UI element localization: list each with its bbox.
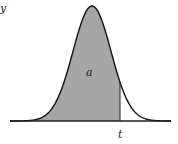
cutoff-label: t [118, 128, 122, 141]
y-axis-label: y [0, 2, 6, 15]
area-label: a [86, 66, 93, 79]
